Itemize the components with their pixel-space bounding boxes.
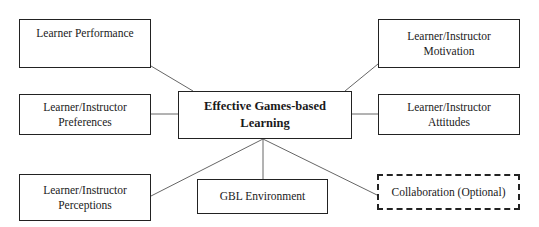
node-perceptions: Learner/Instructor Perceptions [19, 174, 151, 221]
node-label: Learner Performance [36, 26, 133, 41]
node-learner-performance: Learner Performance [19, 19, 151, 68]
edge-performance [151, 66, 193, 91]
node-label: GBL Environment [220, 189, 306, 204]
node-label: Collaboration (Optional) [391, 185, 505, 200]
node-gbl-environment: GBL Environment [197, 179, 328, 214]
node-attitudes: Learner/Instructor Attitudes [378, 94, 520, 135]
diagram-canvas: Effective Games-based Learning Learner P… [0, 0, 539, 227]
node-label: Learner/Instructor Motivation [407, 29, 491, 59]
node-motivation: Learner/Instructor Motivation [378, 19, 520, 68]
node-label: Learner/Instructor Perceptions [43, 183, 127, 213]
node-label: Learner/Instructor Preferences [43, 100, 127, 130]
edge-motivation [345, 64, 378, 91]
center-node-label: Effective Games-based Learning [204, 98, 326, 132]
node-preferences: Learner/Instructor Preferences [19, 94, 151, 135]
center-node-effective-gbl: Effective Games-based Learning [178, 91, 352, 139]
node-label: Learner/Instructor Attitudes [407, 100, 491, 130]
node-collaboration: Collaboration (Optional) [377, 174, 520, 210]
